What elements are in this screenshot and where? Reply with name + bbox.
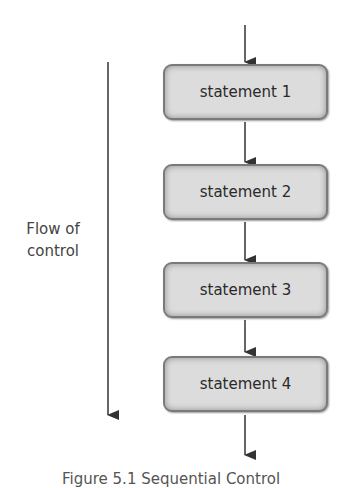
flow-label-line1: Flow of	[8, 218, 98, 240]
flow-label-line2: control	[8, 240, 98, 262]
figure-caption: Figure 5.1 Sequential Control	[62, 470, 280, 488]
statement-box-2: statement 2	[163, 164, 328, 220]
statement-box-4: statement 4	[163, 356, 328, 412]
statement-box-1: statement 1	[163, 64, 328, 120]
statement-box-3: statement 3	[163, 262, 328, 318]
flow-of-control-label: Flow of control	[8, 218, 98, 262]
